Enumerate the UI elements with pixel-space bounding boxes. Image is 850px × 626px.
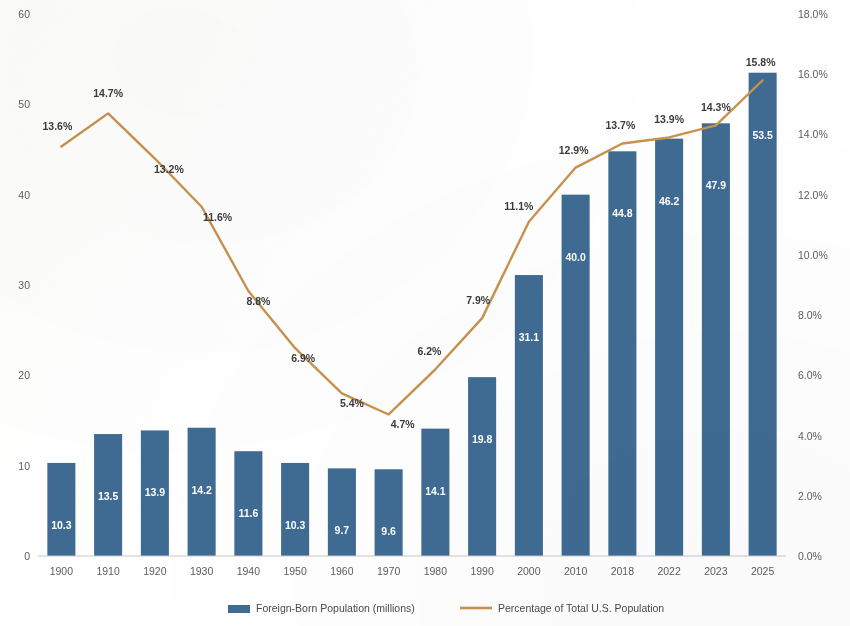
x-axis-tick-label: 1960 [330,565,354,577]
x-axis-tick-label: 1940 [237,565,261,577]
y-axis-right-tick-label: 2.0% [798,490,822,502]
x-axis-tick-label: 2025 [751,565,775,577]
x-axis-tick-label: 1980 [424,565,448,577]
y-axis-left-tick-label: 30 [18,279,30,291]
line-value-label: 12.9% [559,144,589,156]
x-axis-tick-label: 1990 [470,565,494,577]
bar-value-label: 53.5 [752,129,773,141]
line-value-label: 5.4% [340,397,365,409]
bar-value-label: 13.9 [145,486,166,498]
y-axis-right-tick-label: 18.0% [798,8,828,20]
bar-value-label: 11.6 [238,507,258,519]
chart-container: 0102030405060 0.0%2.0%4.0%6.0%8.0%10.0%1… [0,0,850,626]
y-axis-right-tick-label: 12.0% [798,189,828,201]
line-value-label: 14.7% [93,87,123,99]
bar-value-label: 10.3 [285,519,306,531]
x-axis-tick-label: 1920 [143,565,167,577]
bar [328,468,356,556]
bar-value-label: 10.3 [51,519,72,531]
bar-value-label: 9.7 [335,524,350,536]
x-axis-tick-label: 1910 [96,565,120,577]
y-axis-left-tick-label: 50 [18,98,30,110]
x-axis-tick-label: 1900 [50,565,74,577]
y-axis-left-tick-label: 20 [18,369,30,381]
line-value-label: 15.8% [746,56,776,68]
bar-value-label: 40.0 [565,251,586,263]
y-axis-right-tick-label: 10.0% [798,249,828,261]
y-axis-left-tick-label: 10 [18,460,30,472]
bar-value-label: 44.8 [612,207,633,219]
legend-swatch-bar [228,605,250,613]
line-value-label: 13.7% [605,119,635,131]
bar-value-label: 19.8 [472,433,493,445]
y-axis-left-tick-label: 40 [18,189,30,201]
legend-label-line: Percentage of Total U.S. Population [498,602,664,614]
bar-value-label: 46.2 [659,195,680,207]
bar-value-label: 13.5 [98,490,119,502]
x-axis-tick-label: 1970 [377,565,401,577]
line-value-label: 13.6% [42,120,72,132]
y-axis-right-tick-label: 16.0% [798,68,828,80]
bar-value-label: 47.9 [706,179,727,191]
bar-value-label: 9.6 [381,525,396,537]
bar-value-label: 14.2 [191,484,212,496]
line-value-label: 6.9% [291,352,316,364]
bar [234,451,262,556]
y-axis-right-tick-label: 6.0% [798,369,822,381]
line-value-label: 14.3% [701,101,731,113]
bar [515,275,543,556]
line-value-label: 8.8% [246,295,271,307]
line-value-label: 11.6% [203,211,233,223]
combo-chart: 0102030405060 0.0%2.0%4.0%6.0%8.0%10.0%1… [0,0,850,626]
line-value-label: 11.1% [504,200,534,212]
y-axis-right-tick-label: 4.0% [798,430,822,442]
x-axis-tick-label: 1930 [190,565,214,577]
x-axis-tick-label: 2022 [657,565,681,577]
line-value-label: 6.2% [417,345,442,357]
bar [749,73,777,556]
y-axis-left-tick-label: 0 [24,550,30,562]
y-axis-right-tick-label: 8.0% [798,309,822,321]
bar [468,377,496,556]
x-axis-tick-label: 2000 [517,565,541,577]
bar [562,195,590,556]
legend-label-bar: Foreign-Born Population (millions) [256,602,415,614]
bar-value-label: 31.1 [519,331,540,343]
line-value-label: 7.9% [466,294,491,306]
line-value-label: 13.2% [154,163,184,175]
bar [375,469,403,556]
y-axis-left-tick-label: 60 [18,8,30,20]
x-axis-tick-label: 2018 [611,565,635,577]
y-axis-right-tick-label: 0.0% [798,550,822,562]
x-axis-tick-label: 2023 [704,565,728,577]
x-axis-tick-label: 2010 [564,565,588,577]
bar [47,463,75,556]
bar-value-label: 14.1 [425,485,446,497]
bar [281,463,309,556]
x-axis-tick-label: 1950 [283,565,307,577]
y-axis-right-tick-label: 14.0% [798,128,828,140]
line-value-label: 4.7% [391,418,416,430]
line-value-label: 13.9% [654,113,684,125]
